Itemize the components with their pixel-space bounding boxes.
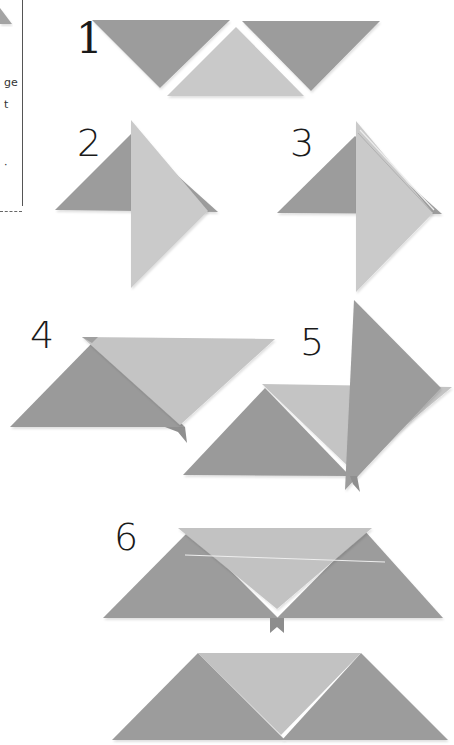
step-2-light-triangle [131,120,208,288]
step-6-tab [270,618,284,633]
step-number-5: 5 [300,323,324,361]
final-result-pieces [112,653,448,740]
step-5-dark-tab [350,476,360,492]
step-3-light-triangle [356,121,433,292]
step-4-dark-tab [165,427,187,443]
step-6-pieces [103,528,443,633]
side-panel-triangle [0,8,12,24]
step-1-pieces [92,20,380,96]
step-number-4: 4 [30,316,54,354]
step-number-6: 6 [114,518,138,556]
origami-diagram: ge t · [0,0,454,745]
diagram-drawing [0,0,454,745]
step-5-dark-vertical-triangle [345,300,441,490]
step-number-2: 2 [77,124,101,162]
step-number-3: 3 [290,124,314,162]
step-number-1: 1 [76,18,103,60]
